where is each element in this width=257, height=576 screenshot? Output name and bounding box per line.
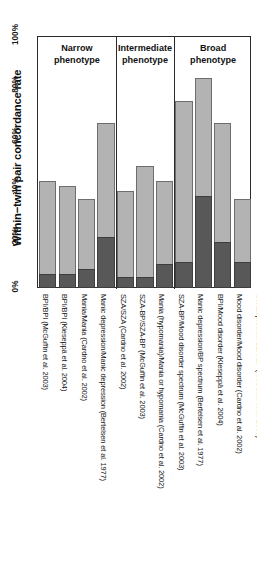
panel-title: Broad phenotype: [174, 43, 252, 66]
x-tick-label: BPI/BPI (Kieseppä et al. 2004): [60, 294, 69, 391]
bar-lower-segment: [195, 196, 212, 288]
x-tick-label: Schizophrenia/SZA-BP (McGuffin et al. 20…: [255, 294, 257, 438]
x-tick-label: Mania (hypomania)/Mania or hypomania (Ca…: [157, 294, 166, 488]
bar: [136, 166, 153, 287]
y-tick-label: 40%: [11, 163, 20, 209]
x-tick-label: Mania/Mania (Cardno et al. 2002): [80, 294, 89, 401]
bar-lower-segment: [117, 277, 134, 288]
x-tick-label: Manic depression/Manic depression (Berte…: [99, 294, 108, 481]
panel-separator: [174, 37, 175, 289]
bar-lower-segment: [175, 262, 192, 288]
panel-title: Narrow phenotype: [38, 43, 116, 66]
bar-lower-segment: [97, 237, 114, 288]
x-tick-label: Manic depression/BP spectrum (Bertelsen …: [196, 294, 205, 466]
bar-lower-segment: [39, 274, 56, 288]
bar: [156, 181, 173, 287]
x-tick-label: SZA-BP/Mood disorder spectrum (McGuffin …: [177, 294, 186, 470]
y-tick-label: 60%: [11, 112, 20, 158]
bar: [195, 78, 212, 287]
x-tick-label: BPI/Mood disorder (Kieseppä et al. 2004): [216, 294, 225, 426]
bar: [234, 199, 251, 287]
panel-title: Intermediate phenotype: [116, 43, 174, 66]
bar-lower-segment: [234, 262, 251, 288]
bar-lower-segment: [78, 269, 95, 288]
x-tick-label: SZA-BP/SZA-BP (McGuffin et al. 2003): [138, 294, 147, 419]
bar: [97, 123, 114, 287]
x-axis-category-labels: BPI/BPI (McGuffin et al. 2003)BPI/BPI (K…: [0, 288, 257, 576]
y-tick-label: 80%: [11, 62, 20, 108]
panel-separator: [116, 37, 117, 289]
plot-area: Narrow phenotypeIntermediate phenotypeBr…: [37, 36, 251, 288]
chart-root: Within−twin pair concordance rate 0%20%4…: [0, 0, 257, 576]
bar: [39, 181, 56, 287]
y-tick-label: 20%: [11, 213, 20, 259]
x-tick-label: Mood disorder/Mood disorder (Cardno et a…: [235, 294, 244, 454]
bar-lower-segment: [136, 277, 153, 288]
bar-lower-segment: [214, 242, 231, 288]
bar-series-container: [38, 37, 250, 287]
bar-lower-segment: [59, 274, 76, 288]
bar: [175, 101, 192, 287]
x-tick-label: BPI/BPI (McGuffin et al. 2003): [41, 294, 50, 390]
x-tick-label: SZA/SZA (Cardno et al. 2002): [119, 294, 128, 389]
bar: [59, 186, 76, 287]
bar: [117, 191, 134, 287]
y-tick-label: 100%: [11, 12, 20, 58]
bar: [214, 123, 231, 287]
bar: [78, 199, 95, 287]
bar-lower-segment: [156, 264, 173, 288]
